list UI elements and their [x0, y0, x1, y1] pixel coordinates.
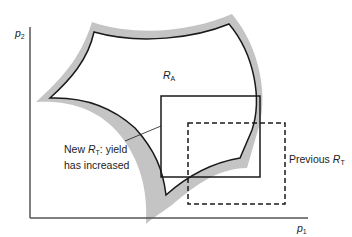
new-rt-prefix: New — [64, 143, 88, 155]
region-ra-subscript: A — [171, 75, 176, 82]
previous-rt-prefix: Previous — [289, 153, 333, 165]
region-ra-label: RA — [163, 69, 175, 85]
region-ra-symbol: R — [163, 69, 171, 81]
y-axis-label: p2 — [15, 27, 25, 43]
previous-rt-label: Previous RT — [289, 153, 345, 169]
new-rt-label: New RT: yield has increased — [64, 143, 129, 171]
x-axis-label-subscript: 1 — [303, 228, 307, 235]
new-rt-label-line2: has increased — [64, 159, 129, 171]
diagram-canvas — [0, 0, 352, 237]
new-rt-symbol: R — [88, 143, 96, 155]
x-axis-label: p1 — [297, 222, 307, 237]
y-axis-label-subscript: 2 — [21, 33, 25, 40]
new-rt-suffix: : yield — [100, 143, 127, 155]
previous-rt-subscript: T — [340, 159, 344, 166]
new-rt-label-line1: New RT: yield — [64, 143, 129, 159]
